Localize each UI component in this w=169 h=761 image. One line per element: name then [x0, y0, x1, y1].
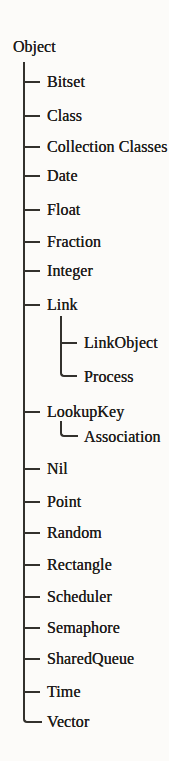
branch-tick-random: [25, 532, 40, 534]
node-label-integer: Integer: [47, 263, 93, 279]
node-label-process: Process: [84, 369, 134, 385]
branch-tick-linkobject: [62, 342, 77, 344]
tree-trunk-line: [23, 62, 25, 709]
node-label-class: Class: [47, 108, 82, 124]
branch-tick-semaphore: [25, 627, 40, 629]
root-class-label: Object: [13, 39, 56, 55]
branch-tick-scheduler: [25, 596, 40, 598]
branch-tick-lookupkey: [25, 411, 40, 413]
lookupkey-subtree-line: [60, 421, 78, 437]
node-label-lookupkey: LookupKey: [47, 404, 124, 420]
node-label-linkobject: LinkObject: [84, 335, 158, 351]
node-label-point: Point: [47, 494, 81, 510]
node-label-association: Association: [84, 429, 161, 445]
branch-tick-date: [25, 175, 40, 177]
node-label-time: Time: [47, 684, 81, 700]
branch-tick-sharedqueue: [25, 658, 40, 660]
branch-tick-time: [25, 691, 40, 693]
node-label-semaphore: Semaphore: [47, 620, 120, 636]
node-label-nil: Nil: [47, 461, 68, 477]
branch-tick-float: [25, 209, 40, 211]
node-label-rectangle: Rectangle: [47, 557, 112, 573]
branch-tick-nil: [25, 468, 40, 470]
node-label-random: Random: [47, 525, 102, 541]
node-label-collection-classes: Collection Classes: [47, 139, 167, 155]
node-label-fraction: Fraction: [47, 234, 101, 250]
branch-tick-collection-classes: [25, 146, 40, 148]
branch-tick-bitset: [25, 81, 40, 83]
tree-trunk-bottom-corner: [23, 709, 42, 723]
node-label-date: Date: [47, 168, 78, 184]
link-subtree-line: [60, 316, 77, 377]
branch-tick-link: [25, 304, 40, 306]
node-label-bitset: Bitset: [47, 74, 85, 90]
node-label-scheduler: Scheduler: [47, 589, 112, 605]
node-label-link: Link: [47, 297, 78, 313]
node-label-float: Float: [47, 202, 80, 218]
node-label-sharedqueue: SharedQueue: [47, 651, 134, 667]
branch-tick-rectangle: [25, 564, 40, 566]
node-label-vector: Vector: [47, 714, 89, 730]
class-hierarchy-diagram: Object Bitset Class Collection Classes D…: [0, 0, 169, 761]
branch-tick-fraction: [25, 241, 40, 243]
branch-tick-class: [25, 115, 40, 117]
branch-tick-integer: [25, 270, 40, 272]
branch-tick-point: [25, 501, 40, 503]
